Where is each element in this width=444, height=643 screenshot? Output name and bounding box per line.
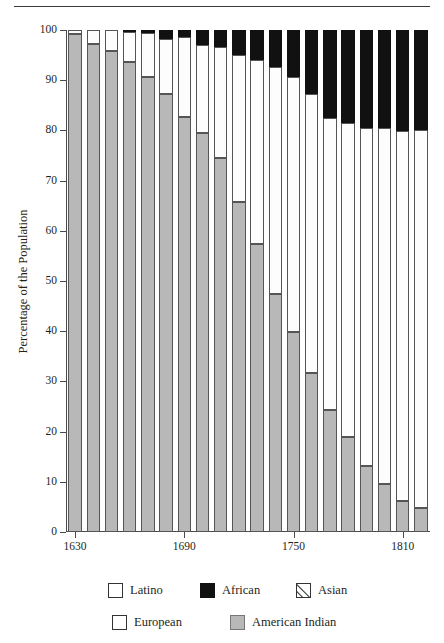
bar-segment-african	[141, 30, 154, 33]
bar-segment-african	[196, 30, 209, 45]
chart-legend: Latino African Asian European American I…	[108, 578, 388, 634]
legend-row-top: Latino African Asian	[108, 578, 388, 602]
x-tick-mark	[184, 531, 185, 538]
bar-segment-european	[414, 130, 427, 508]
bar-segment-european	[232, 55, 245, 202]
bar-segment-african	[159, 30, 172, 39]
bar-segment-european	[178, 37, 191, 118]
bar-segment-american-indian	[360, 466, 373, 532]
legend-item-european: European	[112, 615, 230, 630]
bar-segment-american-indian	[68, 34, 81, 532]
bar-segment-european	[323, 118, 336, 410]
bar-1760	[305, 30, 318, 532]
bar-1820	[414, 30, 427, 532]
bar-1650	[105, 30, 118, 532]
bar-segment-american-indian	[123, 62, 136, 532]
bar-segment-african	[269, 30, 282, 67]
bar-segment-american-indian	[196, 133, 209, 532]
legend-label-african: African	[222, 584, 260, 597]
bar-segment-african	[323, 30, 336, 118]
y-tick-label: 10	[46, 476, 58, 488]
bar-1750	[287, 30, 300, 532]
bar-segment-american-indian	[378, 484, 391, 532]
legend-label-asian: Asian	[318, 584, 347, 597]
bar-1630	[68, 30, 81, 532]
bar-segment-european	[214, 47, 227, 158]
legend-label-american-indian: American Indian	[252, 616, 336, 629]
plot-frame: 0102030405060708090100 1630169017501810	[66, 30, 430, 532]
bar-1660	[123, 30, 136, 532]
y-tick-label: 30	[46, 376, 58, 388]
y-tick-label: 70	[46, 175, 58, 187]
x-tick-mark	[403, 531, 404, 538]
bar-segment-european	[87, 30, 100, 44]
bar-1790	[360, 30, 373, 532]
bar-1730	[250, 30, 263, 532]
legend-swatch-american-indian-icon	[230, 615, 245, 630]
bar-segment-american-indian	[250, 244, 263, 532]
bar-1720	[232, 30, 245, 532]
bar-segment-african	[250, 30, 263, 60]
bar-1770	[323, 30, 336, 532]
bar-segment-african	[178, 30, 191, 37]
x-tick-mark	[294, 531, 295, 538]
bar-segment-american-indian	[105, 51, 118, 532]
x-tick-label: 1630	[64, 541, 87, 553]
bar-segment-african	[378, 30, 391, 128]
x-tick-label: 1750	[282, 541, 305, 553]
bar-segment-european	[360, 128, 373, 466]
bar-segment-american-indian	[414, 508, 427, 532]
bar-1780	[341, 30, 354, 532]
y-tick-mark	[60, 532, 66, 533]
top-rule-divider	[14, 6, 430, 7]
bar-segment-american-indian	[159, 94, 172, 532]
legend-label-european: European	[134, 616, 182, 629]
bar-segment-american-indian	[178, 117, 191, 532]
bar-1670	[141, 30, 154, 532]
bar-1710	[214, 30, 227, 532]
y-tick-label: 20	[46, 426, 58, 438]
bar-1640	[87, 30, 100, 532]
bar-segment-american-indian	[269, 294, 282, 532]
bar-segment-american-indian	[305, 373, 318, 532]
bar-segment-european	[287, 77, 300, 332]
bar-segment-european	[305, 94, 318, 373]
bar-1680	[159, 30, 172, 532]
bar-segment-american-indian	[214, 158, 227, 532]
bar-segment-african	[360, 30, 373, 128]
bar-1690	[178, 30, 191, 532]
x-tick-label: 1690	[173, 541, 196, 553]
legend-item-asian: Asian	[296, 583, 347, 598]
y-tick-label: 80	[46, 125, 58, 137]
y-axis-title-label: Percentage of the Population	[16, 209, 31, 353]
legend-row-bottom: European American Indian	[108, 610, 388, 634]
bar-series-group	[66, 30, 430, 532]
bar-segment-european	[159, 39, 172, 94]
bar-segment-european	[105, 30, 118, 51]
chart-figure: Percentage of the Population 01020304050…	[0, 0, 444, 643]
bar-segment-african	[305, 30, 318, 94]
bar-segment-european	[341, 123, 354, 437]
bar-segment-african	[123, 30, 136, 32]
bar-segment-american-indian	[87, 44, 100, 532]
x-tick-mark	[75, 531, 76, 538]
bar-segment-american-indian	[396, 501, 409, 532]
bar-segment-african	[396, 30, 409, 131]
y-tick-label: 50	[46, 275, 58, 287]
bar-segment-african	[341, 30, 354, 123]
legend-label-latino: Latino	[130, 584, 163, 597]
bar-segment-european	[396, 131, 409, 501]
bar-segment-european	[141, 33, 154, 77]
bar-segment-european	[250, 60, 263, 244]
bar-segment-african	[287, 30, 300, 77]
bar-segment-american-indian	[232, 202, 245, 532]
bar-segment-european	[269, 67, 282, 294]
bar-segment-american-indian	[323, 410, 336, 532]
y-tick-label: 0	[51, 526, 57, 538]
y-tick-label: 100	[40, 24, 57, 36]
bar-1740	[269, 30, 282, 532]
y-tick-label: 90	[46, 74, 58, 86]
legend-swatch-european-icon	[112, 615, 127, 630]
bar-segment-african	[232, 30, 245, 55]
bar-segment-european	[196, 45, 209, 133]
